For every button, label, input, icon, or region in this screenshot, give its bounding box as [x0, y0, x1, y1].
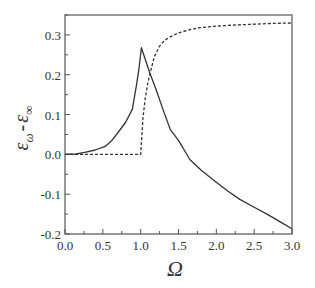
x-axis-title: Ω	[167, 256, 183, 281]
x-tick-label: 0.5	[95, 238, 111, 253]
x-tick-label: 1.0	[133, 238, 149, 253]
y-tick-label: 0.1	[45, 108, 61, 123]
series-layer	[65, 23, 292, 229]
y-tick-label: 0.3	[45, 28, 61, 43]
x-tick-label: 3.0	[284, 238, 300, 253]
x-tick-label: 2.5	[246, 238, 262, 253]
chart: 0.00.51.01.52.02.53.0 -0.2-0.10.00.10.20…	[0, 0, 315, 288]
plot-border	[65, 15, 292, 234]
x-axis-label: Ω	[167, 256, 183, 281]
x-tick-label: 1.5	[170, 238, 186, 253]
y-tick-label: 0.0	[45, 147, 61, 162]
y-tick-label: 0.2	[45, 68, 61, 83]
y-label-sub-infinity: ∞	[21, 106, 36, 115]
y-tick-label: -0.2	[40, 227, 61, 242]
y-axis-label: εω-ε∞	[10, 106, 36, 151]
y-label-sub-omega: ω	[21, 133, 36, 142]
y-label-epsilon-2: ε	[10, 115, 32, 123]
series-solid-line	[65, 48, 292, 229]
y-label-minus: -	[10, 125, 32, 132]
x-tick-label: 2.0	[208, 238, 224, 253]
series-dashed-line	[65, 23, 292, 154]
x-axis-ticks: 0.00.51.01.52.02.53.0	[57, 229, 300, 253]
y-label-epsilon-1: ε	[10, 142, 32, 150]
plot-frame	[65, 15, 292, 234]
y-axis-title: εω-ε∞	[10, 106, 36, 151]
y-tick-label: -0.1	[40, 187, 61, 202]
